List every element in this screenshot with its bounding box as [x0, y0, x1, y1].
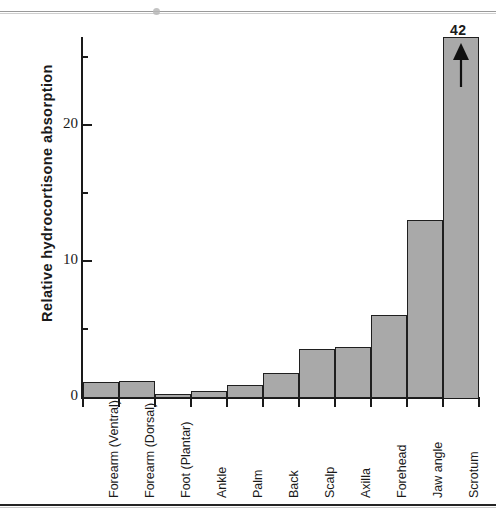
x-axis-tick	[442, 399, 444, 407]
x-axis-tick	[190, 399, 192, 407]
bar	[335, 347, 371, 398]
x-axis-tick-label: Back	[287, 470, 301, 498]
bar	[263, 373, 299, 398]
y-axis-major-tick	[83, 124, 92, 126]
bar	[83, 382, 119, 398]
x-axis-tick	[298, 399, 300, 407]
x-axis-tick	[478, 399, 480, 407]
y-axis-minor-tick	[83, 328, 88, 330]
y-axis-minor-tick	[83, 192, 88, 194]
bar	[299, 349, 335, 398]
up-arrow-icon	[452, 41, 470, 91]
x-axis-tick-label: Palm	[251, 470, 265, 498]
x-axis-tick-label: Forehead	[395, 444, 409, 498]
x-axis-tick-label: Forearm (Dorsal)	[143, 403, 157, 498]
x-axis-tick	[226, 399, 228, 407]
x-axis-tick	[262, 399, 264, 407]
y-axis-tick-label: 20	[38, 115, 78, 132]
x-axis-tick	[370, 399, 372, 407]
x-axis-tick-label: Scrotum	[467, 451, 481, 498]
x-axis-tick-label: Scalp	[323, 467, 337, 498]
x-axis-tick	[82, 399, 84, 407]
x-axis-tick-label: Forearm (Ventral)	[107, 400, 121, 498]
y-axis-major-tick	[83, 260, 92, 262]
bar-value-annotation: 42	[450, 22, 467, 38]
y-axis-title: Relative hydrocortisone absorption	[39, 28, 55, 358]
x-axis-tick-label: Axilla	[359, 468, 373, 498]
bar-chart: Relative hydrocortisone absorption 01020…	[0, 0, 496, 517]
x-axis-tick-label: Jaw angle	[431, 442, 445, 498]
bar	[119, 381, 155, 398]
y-axis-minor-tick	[83, 56, 88, 58]
bar	[227, 385, 263, 398]
x-axis-tick	[334, 399, 336, 407]
bar	[155, 394, 191, 398]
y-axis-tick-label: 0	[38, 387, 78, 404]
figure-page: Relative hydrocortisone absorption 01020…	[0, 0, 496, 517]
bar	[371, 315, 407, 398]
x-axis-tick-label: Foot (Plantar)	[179, 422, 193, 498]
x-axis-tick-label: Ankle	[215, 467, 229, 498]
bar	[443, 37, 479, 398]
bar	[407, 220, 443, 398]
x-axis-tick	[406, 399, 408, 407]
y-axis-tick-label: 10	[38, 251, 78, 268]
bottom-rule	[0, 504, 496, 506]
bar	[191, 391, 227, 398]
bottom-rule-shadow	[0, 507, 496, 508]
y-axis-line	[81, 37, 83, 399]
